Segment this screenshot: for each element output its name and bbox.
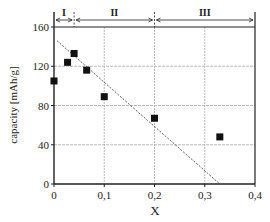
y-tick-label: 80 bbox=[38, 100, 50, 112]
capacity-vs-x-chart: 00,10,20,30,404080120160 IIIIII X capaci… bbox=[0, 0, 270, 222]
x-axis-label: X bbox=[150, 203, 160, 218]
data-point-square-marker bbox=[71, 50, 78, 57]
region-markers: IIIIII bbox=[56, 7, 253, 27]
data-point-square-marker bbox=[64, 59, 71, 66]
data-point-square-marker bbox=[51, 77, 58, 84]
data-point-square-marker bbox=[101, 93, 108, 100]
y-tick-label: 120 bbox=[33, 60, 50, 72]
x-tick-label: 0,3 bbox=[198, 189, 212, 201]
tick-labels: 00,10,20,30,404080120160 bbox=[33, 21, 263, 201]
region-label: II bbox=[110, 7, 118, 18]
data-point-square-marker bbox=[216, 133, 223, 140]
x-tick-label: 0,1 bbox=[97, 189, 111, 201]
dashed-trend-line bbox=[57, 41, 220, 184]
chart-canvas: 00,10,20,30,404080120160 IIIIII X capaci… bbox=[0, 0, 270, 222]
region-label: III bbox=[199, 7, 211, 18]
y-axis-label: capacity [mAh/g] bbox=[7, 66, 19, 143]
x-tick-label: 0,4 bbox=[248, 189, 262, 201]
data-point-square-marker bbox=[83, 67, 90, 74]
data-points bbox=[51, 50, 224, 140]
x-tick-label: 0,2 bbox=[148, 189, 162, 201]
y-tick-label: 40 bbox=[38, 139, 50, 151]
region-label: I bbox=[62, 7, 66, 18]
x-tick-label: 0 bbox=[51, 189, 57, 201]
y-tick-label: 160 bbox=[33, 21, 50, 33]
y-tick-label: 0 bbox=[44, 178, 50, 190]
data-point-square-marker bbox=[151, 115, 158, 122]
grid-lines bbox=[54, 27, 255, 184]
trend-line bbox=[57, 41, 220, 184]
